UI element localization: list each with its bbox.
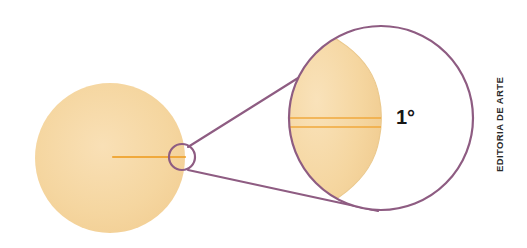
angle-label: 1° xyxy=(396,106,415,129)
sun-disc-group xyxy=(35,83,185,233)
art-credit-label: EDITORIA DE ARTE xyxy=(494,77,505,172)
figure-root: 1° EDITORIA DE ARTE xyxy=(0,0,527,248)
sun-angular-diameter-diagram xyxy=(0,0,527,248)
magnified-view-group xyxy=(289,24,473,215)
